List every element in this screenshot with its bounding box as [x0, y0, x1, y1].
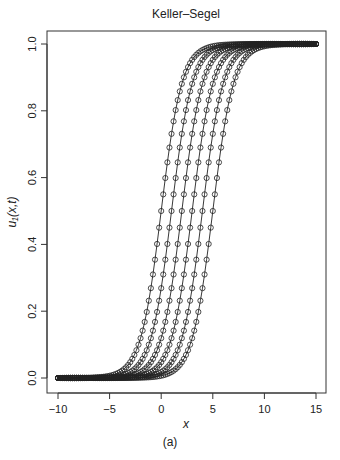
y-tick-label: 0.2 [26, 304, 38, 319]
x-axis-label: x [182, 417, 190, 431]
y-tick-label: 0.4 [26, 237, 38, 252]
series-t4 [55, 41, 318, 380]
x-tick-label: −10 [49, 403, 68, 415]
x-tick-label: 0 [158, 403, 164, 415]
figure-caption: (a) [0, 435, 340, 449]
x-tick-label: 10 [258, 403, 270, 415]
y-tick-label: 0.6 [26, 170, 38, 185]
y-axis: 0.00.20.40.60.81.0 [26, 36, 47, 385]
x-axis: −10−5051015 [49, 393, 322, 415]
x-tick-label: 5 [210, 403, 216, 415]
chart-title: Keller–Segel [152, 7, 220, 21]
series-t5 [55, 41, 318, 380]
y-tick-label: 0.8 [26, 103, 38, 118]
series-t1 [55, 41, 318, 380]
y-axis-label: u₁(x,t) [5, 196, 19, 227]
series-t6 [55, 41, 318, 380]
series-t3 [55, 41, 318, 380]
y-tick-label: 1.0 [26, 36, 38, 51]
series-t2 [55, 41, 318, 380]
x-tick-label: −5 [103, 403, 116, 415]
x-tick-label: 15 [310, 403, 322, 415]
plot-frame [47, 31, 326, 393]
y-tick-label: 0.0 [26, 370, 38, 385]
data-series [55, 41, 318, 380]
keller-segel-chart: Keller–Segel −10−5051015 0.00.20.40.60.8… [0, 0, 340, 432]
